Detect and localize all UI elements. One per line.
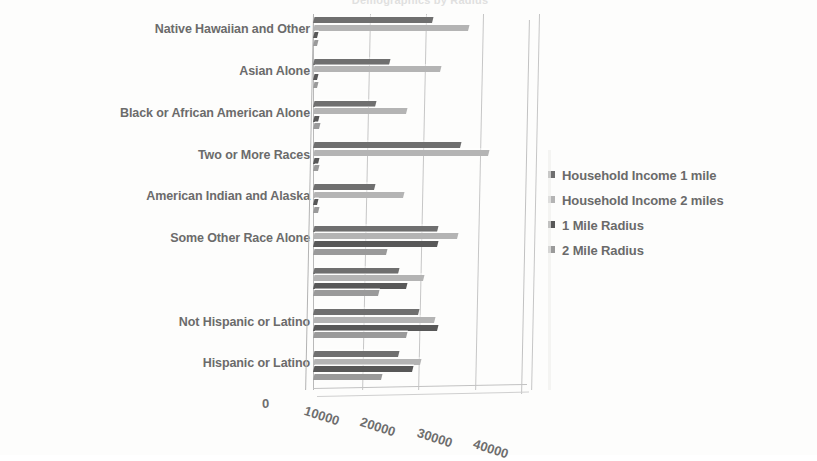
x-tick-label: 10000 — [302, 403, 341, 428]
legend-item[interactable]: 1 Mile Radius — [548, 213, 808, 238]
legend-swatch-icon — [548, 221, 555, 228]
x-tick-label: 40000 — [471, 436, 510, 461]
x-tick-label: 0 — [262, 396, 269, 411]
legend-label: 2 Mile Radius — [562, 243, 644, 258]
legend-swatch-icon — [548, 246, 555, 253]
legend-label: Household Income 2 miles — [562, 193, 724, 208]
legend-item[interactable]: 2 Mile Radius — [548, 238, 808, 263]
legend-label: 1 Mile Radius — [562, 218, 644, 233]
legend-item[interactable]: Household Income 2 miles — [548, 188, 808, 213]
chart-legend: Household Income 1 mileHousehold Income … — [548, 163, 808, 263]
legend-swatch-icon — [548, 196, 555, 203]
legend-swatch-icon — [548, 171, 555, 178]
legend-label: Household Income 1 mile — [562, 168, 716, 183]
x-tick-label: 30000 — [415, 425, 454, 450]
x-tick-label: 20000 — [358, 414, 397, 439]
legend-item[interactable]: Household Income 1 mile — [548, 163, 808, 188]
